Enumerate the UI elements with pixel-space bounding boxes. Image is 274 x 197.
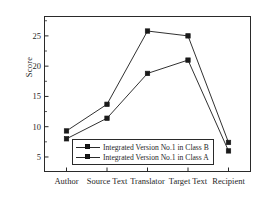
chart-figure: Score 510152025 AuthorSource TextTransla… xyxy=(0,0,274,197)
x-tick-label: Source Text xyxy=(87,176,128,186)
series-marker xyxy=(145,71,149,75)
series-marker xyxy=(105,116,109,120)
x-tick-label: Target Text xyxy=(169,176,207,186)
series-marker xyxy=(64,129,68,133)
x-tick-label: Author xyxy=(54,176,78,186)
series-marker xyxy=(64,137,68,141)
series-marker xyxy=(226,140,230,144)
legend-item: Integrated Version No.1 in Class B xyxy=(76,142,209,152)
legend-item-label: Integrated Version No.1 in Class B xyxy=(103,143,209,152)
series-marker xyxy=(145,29,149,33)
x-tick-label: Recipient xyxy=(212,176,245,186)
series-marker xyxy=(226,149,230,153)
legend-item-label: Integrated Version No.1 in Class A xyxy=(103,153,209,162)
series-marker xyxy=(186,34,190,38)
legend-marker-icon xyxy=(76,143,100,152)
x-tick-label: Translator xyxy=(130,176,165,186)
plot-area xyxy=(0,0,274,197)
legend-marker-icon xyxy=(76,153,100,162)
legend-item: Integrated Version No.1 in Class A xyxy=(76,152,209,162)
chart-legend: Integrated Version No.1 in Class B Integ… xyxy=(72,139,214,165)
series-marker xyxy=(105,102,109,106)
series-marker xyxy=(186,58,190,62)
